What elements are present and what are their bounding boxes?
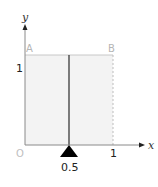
x-axis-arrow-icon: [139, 143, 145, 148]
origin-label: O: [16, 148, 24, 159]
y-axis-label: y: [21, 11, 29, 24]
y-axis-arrow-icon: [23, 24, 28, 30]
pivot-label: 0.5: [61, 161, 79, 174]
y-tick-one: 1: [16, 62, 23, 75]
x-tick-one: 1: [110, 147, 117, 160]
unit-square-diagram: y x A B 1 O 1 0.5: [0, 0, 158, 187]
point-b-label: B: [108, 43, 115, 54]
x-axis-label: x: [148, 139, 155, 152]
point-a-label: A: [26, 43, 33, 54]
pivot-triangle-icon: [60, 145, 78, 157]
